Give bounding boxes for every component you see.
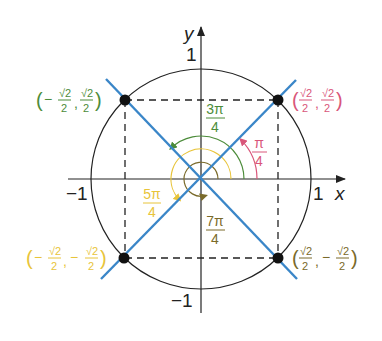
coord-label-q3: ( − √2 2 , − √2 2 ) [26, 245, 107, 272]
svg-text:π: π [254, 135, 264, 151]
coord-label-q4: ( √2 2 , − √2 2 ) [292, 245, 358, 272]
coord-label-q2: ( − √2 2 , √2 2 ) [36, 87, 102, 114]
point-q2 [120, 95, 131, 106]
point-q1 [273, 95, 284, 106]
svg-text:4: 4 [255, 153, 263, 169]
x-tick-neg: −1 [66, 183, 88, 204]
point-q4 [273, 253, 284, 264]
svg-text:3π: 3π [206, 101, 224, 117]
svg-text:4: 4 [211, 231, 219, 247]
svg-text:−: − [44, 91, 52, 107]
svg-text:2: 2 [302, 260, 308, 272]
svg-text:(: ( [292, 247, 299, 269]
svg-text:,: , [63, 253, 67, 269]
y-axis-label: y [182, 23, 195, 44]
svg-text:,: , [74, 95, 78, 111]
svg-text:−: − [322, 249, 330, 265]
svg-text:√2: √2 [300, 245, 312, 257]
svg-text:,: , [315, 95, 319, 111]
y-tick-neg: −1 [171, 290, 193, 311]
svg-text:,: , [315, 253, 319, 269]
svg-text:7π: 7π [206, 213, 224, 229]
svg-text:2: 2 [88, 260, 94, 272]
svg-text:2: 2 [302, 102, 308, 114]
svg-text:√2: √2 [49, 245, 61, 257]
x-tick-pos: 1 [313, 183, 324, 204]
svg-text:(: ( [292, 89, 299, 111]
svg-text:(: ( [36, 89, 43, 111]
svg-text:): ) [351, 247, 358, 269]
svg-text:−: − [70, 249, 78, 265]
svg-text:(: ( [26, 247, 33, 269]
angle-label-7pi-over-4: 7π 4 [206, 213, 225, 247]
coord-label-q1: ( √2 2 , √2 2 ) [292, 87, 343, 114]
y-tick-pos: 1 [186, 44, 197, 65]
svg-text:√2: √2 [337, 245, 349, 257]
svg-text:−: − [34, 249, 42, 265]
svg-text:2: 2 [83, 102, 89, 114]
svg-text:√2: √2 [86, 245, 98, 257]
unit-circle-diagram: y x 1 −1 1 −1 π 4 3π 4 5π 4 7π 4 ( − √2 … [0, 0, 382, 341]
svg-text:4: 4 [148, 204, 156, 220]
svg-text:): ) [100, 247, 107, 269]
svg-text:2: 2 [51, 260, 57, 272]
angle-label-3pi-over-4: 3π 4 [206, 101, 225, 135]
x-axis-label: x [334, 183, 346, 204]
svg-text:√2: √2 [81, 87, 93, 99]
svg-text:): ) [95, 89, 102, 111]
svg-text:5π: 5π [143, 186, 161, 202]
svg-text:√2: √2 [300, 87, 312, 99]
svg-text:√2: √2 [59, 87, 71, 99]
point-q3 [119, 253, 130, 264]
svg-text:2: 2 [324, 102, 330, 114]
svg-text:): ) [336, 89, 343, 111]
svg-text:2: 2 [339, 260, 345, 272]
svg-text:2: 2 [61, 102, 67, 114]
angle-label-5pi-over-4: 5π 4 [143, 186, 161, 220]
angle-label-pi-over-4: π 4 [252, 135, 267, 169]
svg-text:√2: √2 [322, 87, 334, 99]
svg-text:4: 4 [211, 119, 219, 135]
